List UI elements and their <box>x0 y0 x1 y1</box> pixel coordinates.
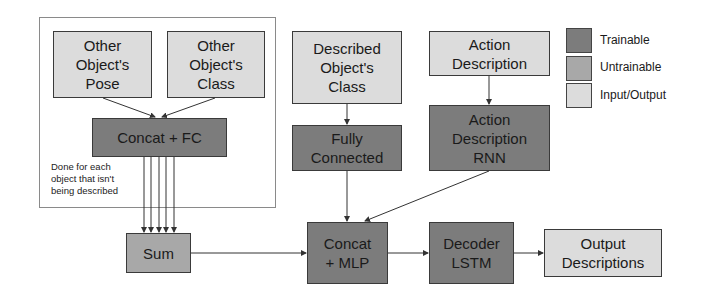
connector-arrows <box>0 0 705 302</box>
